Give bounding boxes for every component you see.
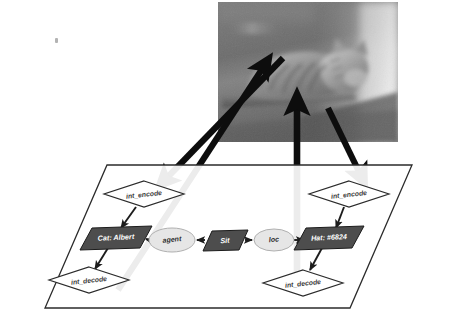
node-agent[interactable]: agent	[149, 228, 195, 252]
node-loc[interactable]: loc	[254, 229, 294, 251]
scan-speck	[55, 38, 58, 43]
node-label: Hat: #6824	[311, 232, 347, 243]
scene-graph-figure: int_encode Cat: Albert agent Sit loc Hat…	[0, 0, 454, 320]
reference-photo	[218, 2, 398, 142]
node-label: Sit	[220, 236, 230, 246]
node-label: loc	[269, 235, 280, 243]
node-cat-albert[interactable]: Cat: Albert	[80, 226, 152, 250]
figure-canvas: int_encode Cat: Albert agent Sit loc Hat…	[0, 0, 454, 320]
